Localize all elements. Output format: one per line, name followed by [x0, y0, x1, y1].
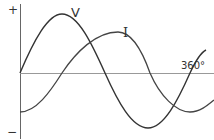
sine-wave-diagram: + − V I 360°	[0, 0, 214, 140]
minus-label: −	[7, 125, 17, 139]
current-curve	[20, 32, 214, 112]
voltage-curve	[20, 14, 206, 128]
plus-label: +	[8, 3, 18, 17]
current-label: I	[123, 25, 128, 40]
voltage-label: V	[71, 5, 80, 20]
end-angle-label: 360°	[181, 60, 205, 71]
